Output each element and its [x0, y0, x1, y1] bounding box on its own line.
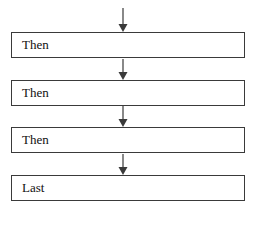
flow-step-label: Then	[22, 85, 49, 101]
flow-step-1: Then	[11, 32, 245, 58]
flow-step-2: Then	[11, 80, 245, 106]
flow-step-label: Then	[22, 37, 49, 53]
flow-step-label: Then	[22, 132, 49, 148]
flow-step-3: Then	[11, 127, 245, 153]
flow-step-label: Last	[22, 180, 44, 196]
flow-step-last: Last	[11, 175, 245, 201]
